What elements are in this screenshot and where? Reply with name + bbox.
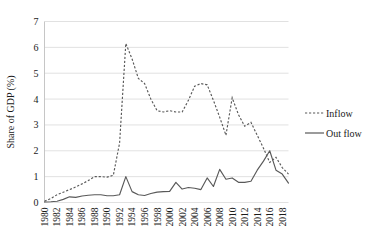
x-tick-label: 1982 — [52, 207, 62, 226]
legend: InflowOut flow — [305, 108, 363, 139]
y-tick-label: 1 — [34, 171, 39, 182]
line-chart: 01234567 1980198219841986198819901992199… — [0, 0, 378, 242]
x-tick-label: 1984 — [65, 207, 75, 226]
x-tick-label: 2016 — [265, 207, 275, 226]
x-tick-label: 1986 — [77, 207, 87, 226]
x-tick-label: 2010 — [228, 207, 238, 226]
y-axis-title: Share of GDP (%) — [5, 75, 17, 148]
gridlines — [45, 22, 289, 203]
x-tick-label: 1998 — [153, 207, 163, 226]
x-tick-label: 1990 — [102, 207, 112, 226]
x-tick-label: 2006 — [203, 207, 213, 226]
y-axis-title-label: Share of GDP (%) — [5, 75, 17, 148]
y-tick-label: 3 — [34, 119, 39, 130]
x-tick-label: 2008 — [215, 207, 225, 226]
x-tick-label: 1992 — [115, 207, 125, 226]
y-tick-label: 6 — [34, 42, 39, 53]
y-tick-label: 4 — [34, 94, 39, 105]
x-tick-label: 2012 — [240, 207, 250, 226]
chart-container: 01234567 1980198219841986198819901992199… — [0, 0, 378, 242]
y-tick-label: 0 — [34, 197, 39, 208]
y-tick-label: 2 — [34, 145, 39, 156]
legend-label-inflow: Inflow — [326, 108, 353, 119]
x-axis-tick-labels: 1980198219841986198819901992199419961998… — [40, 207, 288, 226]
x-tick-label: 2002 — [178, 207, 188, 226]
x-tick-label: 1988 — [90, 207, 100, 226]
y-tick-label: 7 — [34, 16, 39, 27]
series-line-inflow — [45, 43, 289, 201]
x-tick-label: 1996 — [140, 207, 150, 226]
y-axis-tick-labels: 01234567 — [34, 16, 39, 208]
x-tick-label: 2014 — [253, 207, 263, 226]
plot-area — [45, 43, 289, 202]
x-tick-label: 2004 — [190, 207, 200, 226]
x-tick-label: 2000 — [165, 207, 175, 226]
y-tick-label: 5 — [34, 68, 39, 79]
x-tick-label: 1980 — [40, 207, 50, 226]
x-tick-label: 2018 — [278, 207, 288, 226]
legend-label-out-flow: Out flow — [326, 128, 363, 139]
x-tick-label: 1994 — [127, 207, 137, 226]
